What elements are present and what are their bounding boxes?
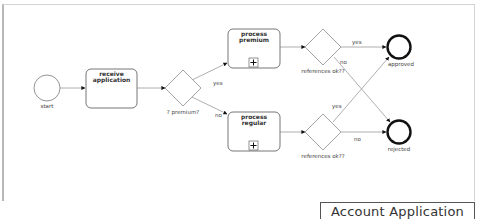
subprocess-process-regular[interactable]: process regular [228, 112, 280, 151]
flow-premium-yes[interactable] [192, 63, 227, 80]
diagram-title: Account Application [320, 202, 475, 219]
start-event[interactable]: start [34, 75, 60, 109]
gateway-label: references ok?? [301, 153, 344, 159]
gateway-label: references ok?? [301, 68, 344, 74]
end-event-rejected[interactable]: rejected [388, 121, 411, 154]
end-event-label: rejected [388, 146, 411, 153]
flow-bottom-yes[interactable] [333, 57, 389, 122]
edge-label-yes: yes [213, 80, 223, 87]
gateway-premium[interactable]: ? premium? [165, 70, 201, 116]
expand-subprocess-icon[interactable] [249, 58, 258, 67]
task-label-line2: regular [242, 119, 267, 127]
task-receive-application[interactable]: receive application [86, 69, 137, 108]
gateway-references-top[interactable]: references ok?? [301, 29, 344, 74]
expand-subprocess-icon[interactable] [249, 141, 258, 150]
task-label-line2: premium [239, 36, 269, 44]
subprocess-process-premium[interactable]: process premium [228, 29, 280, 68]
gateway-label: ? premium? [167, 109, 199, 116]
end-event-label: approved [388, 61, 414, 68]
edge-label-no: no [215, 112, 222, 118]
flow-top-no[interactable] [334, 57, 390, 122]
edge-label-no: no [340, 59, 347, 65]
bpmn-diagram: start receive application ? premium? yes… [0, 0, 479, 219]
gateway-references-bottom[interactable]: references ok?? [301, 114, 344, 159]
edge-label-yes: yes [332, 103, 342, 110]
edge-label-yes: yes [352, 39, 362, 46]
start-label: start [41, 103, 55, 109]
task-label-line2: application [93, 76, 131, 84]
end-event-approved[interactable]: approved [388, 36, 415, 69]
edge-label-no: no [354, 136, 361, 142]
